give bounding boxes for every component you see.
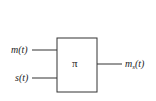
output-label: ms(t): [125, 59, 144, 72]
block-label: π: [72, 58, 78, 69]
input-label-m: m(t): [11, 45, 28, 55]
input-label-s: s(t): [15, 73, 28, 83]
output-label-arg: (t): [135, 58, 144, 69]
